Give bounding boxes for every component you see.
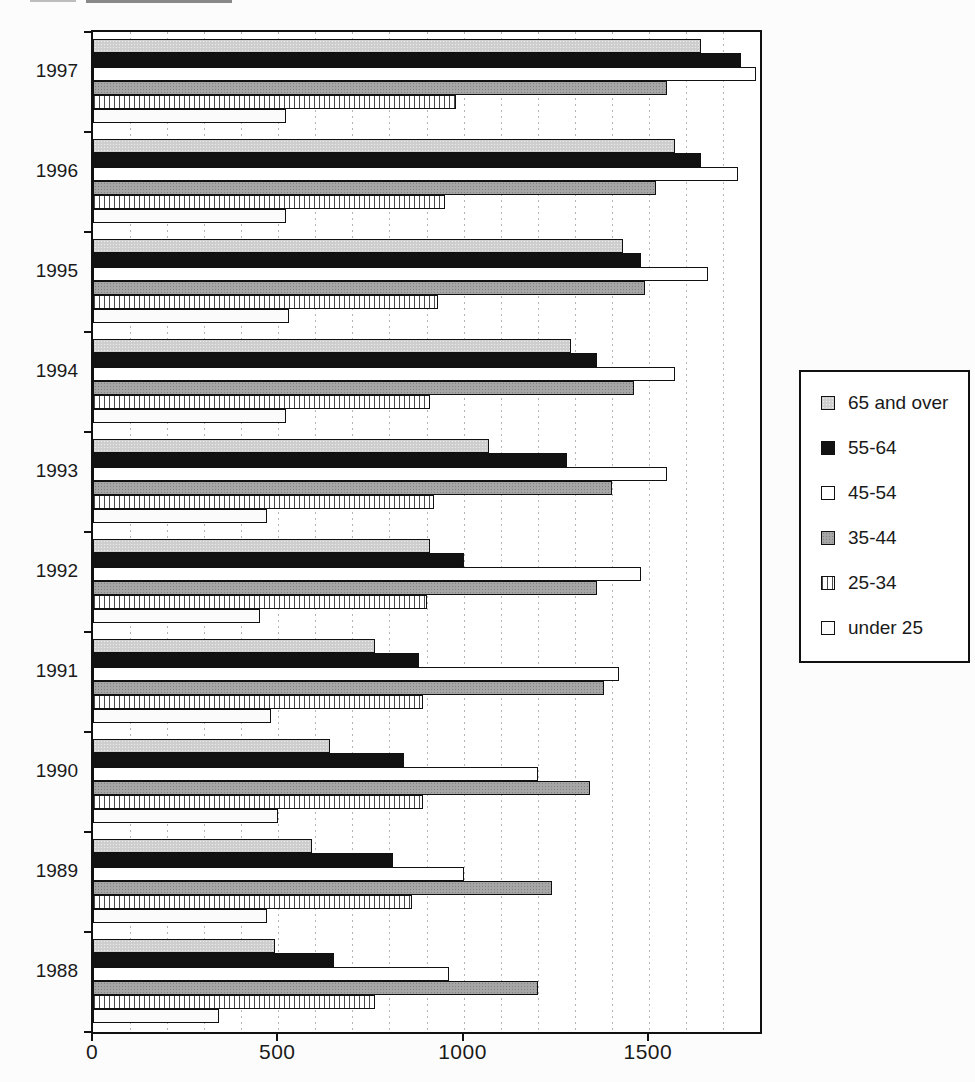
bar-1990-55-64	[93, 753, 404, 767]
bar-1995-under-25	[93, 309, 289, 323]
legend-label: 35-44	[848, 527, 897, 549]
y-tick	[84, 531, 91, 533]
bar-1995-45-54	[93, 267, 708, 281]
legend-item-55-64: 55-64	[821, 437, 960, 459]
bar-1994-35-44	[93, 381, 634, 395]
year-group-1989	[93, 832, 760, 932]
legend-label: under 25	[848, 617, 923, 639]
bar-1989-35-44	[93, 881, 552, 895]
year-label-1991: 1991	[0, 660, 78, 682]
cropped-text-artifact	[30, 0, 76, 2]
bar-1992-45-54	[93, 567, 641, 581]
legend-item-35-44: 35-44	[821, 527, 960, 549]
legend-label: 65 and over	[848, 392, 948, 414]
year-label-1990: 1990	[0, 760, 78, 782]
legend: 65 and over55-6445-5435-4425-34under 25	[799, 370, 970, 663]
legend-label: 25-34	[848, 572, 897, 594]
bar-1994-55-64	[93, 353, 597, 367]
y-tick	[84, 431, 91, 433]
x-tick-label: 500	[259, 1040, 296, 1064]
bar-1988-35-44	[93, 981, 538, 995]
y-tick	[84, 31, 91, 33]
cropped-text-artifact	[86, 0, 232, 3]
bar-1990-65-and-over	[93, 739, 330, 753]
bar-1992-35-44	[93, 581, 597, 595]
legend-swatch-icon	[821, 621, 835, 635]
bar-1995-65-and-over	[93, 239, 623, 253]
year-label-1996: 1996	[0, 160, 78, 182]
bar-1990-35-44	[93, 781, 590, 795]
bar-1988-under-25	[93, 1009, 219, 1023]
y-tick	[84, 731, 91, 733]
bar-1993-45-54	[93, 467, 667, 481]
year-group-1994	[93, 332, 760, 432]
bar-1988-55-64	[93, 953, 334, 967]
bar-1992-under-25	[93, 609, 260, 623]
y-tick	[84, 331, 91, 333]
bar-1991-under-25	[93, 709, 271, 723]
bar-1991-35-44	[93, 681, 604, 695]
legend-swatch-icon	[821, 486, 835, 500]
y-tick	[84, 131, 91, 133]
legend-swatch-icon	[821, 441, 835, 455]
bar-1993-65-and-over	[93, 439, 489, 453]
year-group-1988	[93, 932, 760, 1032]
bar-1988-25-34	[93, 995, 375, 1009]
bar-1988-45-54	[93, 967, 449, 981]
x-tick-label: 1000	[438, 1040, 487, 1064]
year-label-1992: 1992	[0, 560, 78, 582]
year-group-1997	[93, 32, 760, 132]
bar-1989-55-64	[93, 853, 393, 867]
legend-item-under-25: under 25	[821, 617, 960, 639]
bar-1995-25-34	[93, 295, 438, 309]
y-tick	[84, 1031, 91, 1033]
bar-1996-55-64	[93, 153, 701, 167]
legend-item-45-54: 45-54	[821, 482, 960, 504]
bar-1996-65-and-over	[93, 139, 675, 153]
bar-1989-65-and-over	[93, 839, 312, 853]
year-group-1990	[93, 732, 760, 832]
year-group-1992	[93, 532, 760, 632]
legend-label: 45-54	[848, 482, 897, 504]
bar-1997-under-25	[93, 109, 286, 123]
bar-1993-25-34	[93, 495, 434, 509]
bar-1994-under-25	[93, 409, 286, 423]
year-label-1988: 1988	[0, 960, 78, 982]
bar-1996-under-25	[93, 209, 286, 223]
y-tick	[84, 231, 91, 233]
plot-area	[91, 30, 762, 1034]
year-label-1989: 1989	[0, 860, 78, 882]
bar-1991-65-and-over	[93, 639, 375, 653]
bar-1988-65-and-over	[93, 939, 275, 953]
bar-1996-45-54	[93, 167, 738, 181]
bar-1989-under-25	[93, 909, 267, 923]
bar-1991-25-34	[93, 695, 423, 709]
bar-1991-55-64	[93, 653, 419, 667]
year-label-1994: 1994	[0, 360, 78, 382]
bar-1997-45-54	[93, 67, 756, 81]
legend-swatch-icon	[821, 396, 835, 410]
bar-1997-55-64	[93, 53, 741, 67]
year-group-1995	[93, 232, 760, 332]
y-tick	[84, 831, 91, 833]
bar-1992-25-34	[93, 595, 427, 609]
year-label-1995: 1995	[0, 260, 78, 282]
bar-1992-65-and-over	[93, 539, 430, 553]
bar-1993-55-64	[93, 453, 567, 467]
bar-1997-65-and-over	[93, 39, 701, 53]
year-group-1996	[93, 132, 760, 232]
bar-1995-55-64	[93, 253, 641, 267]
year-group-1991	[93, 632, 760, 732]
bar-1990-45-54	[93, 767, 538, 781]
bar-1990-25-34	[93, 795, 423, 809]
y-tick	[84, 631, 91, 633]
chart-canvas: 1997199619951994199319921991199019891988…	[0, 0, 975, 1082]
legend-swatch-icon	[821, 576, 835, 590]
bar-1997-35-44	[93, 81, 667, 95]
bar-1995-35-44	[93, 281, 645, 295]
bar-1989-25-34	[93, 895, 412, 909]
legend-swatch-icon	[821, 531, 835, 545]
year-label-1993: 1993	[0, 460, 78, 482]
x-tick-label: 1500	[623, 1040, 672, 1064]
bar-1996-25-34	[93, 195, 445, 209]
